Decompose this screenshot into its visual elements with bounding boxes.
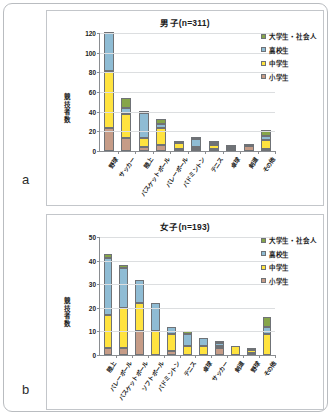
bar-segment xyxy=(215,348,224,355)
y-axis-tick-mark xyxy=(97,53,100,54)
y-axis-tick-label: 50 xyxy=(89,234,96,241)
legend-item: 大学生・社会人 xyxy=(261,235,317,245)
legend-label: 大学生・社会人 xyxy=(269,235,317,245)
gridline xyxy=(100,53,275,54)
legend-item: 高校生 xyxy=(261,45,317,55)
x-axis-tick-mark xyxy=(164,355,165,358)
legend-item: 高校生 xyxy=(261,249,317,259)
figure-frame: 男子(n=311) 競技者数 020406080100120野球サッカー陸上バス… xyxy=(3,3,328,412)
x-axis-tick-mark xyxy=(258,151,259,154)
bar-segment xyxy=(183,346,192,355)
x-axis-label: テニス xyxy=(181,359,198,378)
bar-female-5[interactable] xyxy=(183,331,192,355)
chart-panel-male: 男子(n=311) 競技者数 020406080100120野球サッカー陸上バス… xyxy=(46,10,324,206)
bar-segment xyxy=(104,71,114,128)
bar-segment xyxy=(199,346,208,355)
y-axis-tick-label: 60 xyxy=(89,89,96,96)
legend-item: 中学生 xyxy=(261,58,317,68)
bar-female-2[interactable] xyxy=(135,280,144,356)
legend-label: 中学生 xyxy=(269,262,290,272)
bar-male-4[interactable] xyxy=(174,141,184,151)
bar-segment xyxy=(199,338,208,345)
bar-male-3[interactable] xyxy=(156,119,166,151)
bar-segment xyxy=(119,268,128,308)
legend-swatch-icon xyxy=(261,74,266,79)
plot-area-female: 01020304050陸上バレーボールバスケットボールソフトボールバドミントンテ… xyxy=(99,237,275,356)
bar-male-1[interactable] xyxy=(121,98,131,151)
y-axis-tick-mark xyxy=(97,112,100,113)
bar-female-6[interactable] xyxy=(199,338,208,355)
x-axis-tick-mark xyxy=(205,151,206,154)
bar-male-9[interactable] xyxy=(261,130,271,151)
y-axis-title-male: 競技者数 xyxy=(61,93,71,123)
legend-male: 大学生・社会人高校生中学生小学生 xyxy=(261,31,317,82)
x-axis-tick-mark xyxy=(135,151,136,154)
plot-area-male: 020406080100120野球サッカー陸上バスケットボールバレーボールバドミ… xyxy=(99,33,275,152)
x-axis-label: 卓球 xyxy=(200,359,214,374)
legend-swatch-icon xyxy=(261,238,266,243)
gridline xyxy=(100,284,275,285)
bar-female-9[interactable] xyxy=(247,348,256,355)
bar-segment xyxy=(104,348,113,355)
gridline xyxy=(100,92,275,93)
x-axis-tick-mark xyxy=(132,355,133,358)
y-axis-tick-label: 20 xyxy=(89,128,96,135)
legend-label: 大学生・社会人 xyxy=(269,31,317,41)
bar-male-8[interactable] xyxy=(244,144,254,151)
y-axis-tick-mark xyxy=(97,92,100,93)
gridline xyxy=(100,72,275,73)
y-axis-tick-mark xyxy=(97,261,100,262)
y-axis-tick-label: 0 xyxy=(92,352,96,359)
bar-segment xyxy=(231,346,240,355)
y-axis-tick-label: 40 xyxy=(89,108,96,115)
y-axis-tick-mark xyxy=(97,308,100,309)
gridline xyxy=(100,237,275,238)
y-axis-tick-label: 100 xyxy=(85,49,96,56)
bar-female-8[interactable] xyxy=(231,346,240,355)
bar-female-0[interactable] xyxy=(104,254,113,355)
y-axis-tick-mark xyxy=(97,33,100,34)
bar-segment xyxy=(119,348,128,355)
x-axis-tick-mark xyxy=(211,355,212,358)
panel-label-b: b xyxy=(22,382,29,397)
legend-swatch-icon xyxy=(261,251,266,256)
legend-swatch-icon xyxy=(261,47,266,52)
legend-female: 大学生・社会人高校生中学生小学生 xyxy=(261,235,317,286)
bar-female-1[interactable] xyxy=(119,265,128,355)
gridline xyxy=(100,131,275,132)
y-axis-tick-label: 0 xyxy=(92,148,96,155)
legend-item: 大学生・社会人 xyxy=(261,31,317,41)
y-axis-tick-label: 120 xyxy=(85,30,96,37)
bar-female-3[interactable] xyxy=(151,303,160,355)
bar-segment xyxy=(261,140,271,149)
y-axis-tick-label: 30 xyxy=(89,281,96,288)
legend-item: 小学生 xyxy=(261,276,317,286)
bar-male-6[interactable] xyxy=(209,141,219,151)
bar-segment xyxy=(263,327,272,334)
legend-label: 小学生 xyxy=(269,72,290,82)
x-axis-tick-mark xyxy=(188,151,189,154)
gridline xyxy=(100,308,275,309)
x-axis-label: テニス xyxy=(208,155,225,174)
y-axis-tick-mark xyxy=(97,72,100,73)
y-axis-tick-mark xyxy=(97,284,100,285)
bar-segment xyxy=(263,334,272,355)
y-axis-tick-mark xyxy=(97,331,100,332)
x-axis-tick-mark xyxy=(148,355,149,358)
chart-title-female: 女子(n=193) xyxy=(47,220,323,232)
legend-swatch-icon xyxy=(261,278,266,283)
legend-item: 小学生 xyxy=(261,72,317,82)
bar-male-5[interactable] xyxy=(191,137,201,151)
bar-female-7[interactable] xyxy=(215,341,224,355)
bar-segment xyxy=(183,334,192,346)
x-axis-tick-mark xyxy=(243,355,244,358)
x-axis-tick-mark xyxy=(195,355,196,358)
x-axis-tick-mark xyxy=(223,151,224,154)
x-axis-label: 卓球 xyxy=(228,155,242,170)
bar-female-10[interactable] xyxy=(263,317,272,355)
bar-segment xyxy=(167,327,176,334)
x-axis-tick-mark xyxy=(180,355,181,358)
legend-label: 高校生 xyxy=(269,249,290,259)
chart-panel-female: 女子(n=193) 競技者数 01020304050陸上バレーボールバスケットボ… xyxy=(46,214,324,410)
y-axis-title-female: 競技者数 xyxy=(61,297,71,327)
